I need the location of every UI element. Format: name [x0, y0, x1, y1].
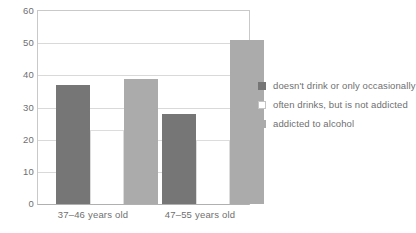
legend-label-1: often drinks, but is not addicted	[273, 99, 408, 110]
bar-group1-series2	[90, 130, 124, 204]
legend-label-0: doesn't drink or only occasionally	[273, 80, 416, 91]
bar-group1-series3	[124, 79, 158, 205]
y-tick-label-50: 50	[6, 38, 34, 48]
legend-item-1[interactable]: often drinks, but is not addicted	[258, 95, 413, 114]
legend-swatch-icon-2	[258, 120, 266, 128]
legend-swatch-icon-0	[258, 82, 266, 90]
y-tick-label-40: 40	[6, 70, 34, 80]
bars-layer	[38, 11, 249, 204]
legend-swatch-icon-1	[258, 101, 266, 109]
y-tick-label-10: 10	[6, 167, 34, 177]
x-tick-label-group1: 37–46 years old	[38, 209, 148, 221]
legend: doesn't drink or only occasionally often…	[258, 76, 413, 133]
legend-label-2: addicted to alcohol	[273, 118, 354, 129]
y-tick-label-30: 30	[6, 103, 34, 113]
x-tick-label-group2: 47–55 years old	[145, 209, 255, 221]
legend-item-0[interactable]: doesn't drink or only occasionally	[258, 76, 413, 95]
y-tick-label-0: 0	[6, 199, 34, 209]
bar-group2-series2	[196, 140, 230, 204]
y-tick-label-60: 60	[6, 6, 34, 16]
bar-group2-series1	[162, 114, 196, 204]
y-tick-label-20: 20	[6, 135, 34, 145]
legend-item-2[interactable]: addicted to alcohol	[258, 114, 413, 133]
bar-group1-series1	[56, 85, 90, 204]
